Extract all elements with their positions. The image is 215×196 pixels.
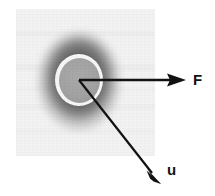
velocity-vector-arrowhead-fill: [147, 171, 162, 185]
velocity-vector-label: u: [167, 162, 176, 177]
force-vector: [79, 74, 186, 87]
velocity-vector: [79, 80, 161, 184]
velocity-vector-arrowhead: [147, 169, 161, 184]
velocity-vector-shaft: [79, 80, 152, 173]
scientific-figure: F u: [0, 0, 215, 196]
force-vector-label: F: [193, 72, 202, 87]
vector-overlay: [0, 0, 215, 196]
